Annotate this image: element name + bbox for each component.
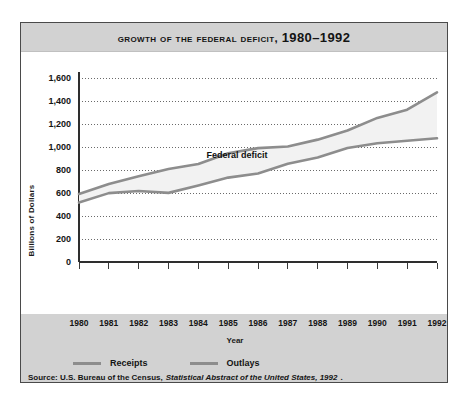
chart-legend: ReceiptsOutlays	[21, 354, 448, 372]
x-axis-tick-label: 1988	[308, 318, 327, 328]
x-axis-tick-label: 1981	[99, 318, 118, 328]
x-axis-tick-label: 1992	[428, 318, 447, 328]
source-note: Source: U.S. Bureau of the Census,Statis…	[21, 372, 448, 383]
legend-item-receipts[interactable]: Receipts	[73, 358, 148, 368]
source-suffix: .	[340, 373, 342, 382]
x-axis-title: Year	[21, 336, 448, 345]
y-axis-tick-label: 1,400	[48, 96, 71, 106]
chart-title-years: 1980–1992	[282, 30, 351, 45]
y-axis-tick-label: 0	[66, 257, 71, 267]
y-axis-tick-label: 800	[56, 165, 71, 175]
x-axis-tick-labels: 1980198119821983198419851986198719881989…	[21, 318, 448, 332]
legend-label: Outlays	[227, 358, 260, 368]
legend-swatch-icon	[190, 362, 218, 365]
chart-title-main: Growth of the Federal Deficit,	[118, 32, 282, 44]
x-axis-tick-label: 1990	[368, 318, 387, 328]
x-axis-band: 1980198119821983198419851986198719881989…	[21, 314, 448, 354]
plot-area: Billions of Dollars 02004006008001,0001,…	[21, 52, 448, 314]
legend-swatch-icon	[73, 362, 101, 365]
x-axis-tick-label: 1982	[129, 318, 148, 328]
y-axis-tick-label: 200	[56, 234, 71, 244]
line-chart-svg: 02004006008001,0001,2001,4001,600Federal…	[21, 52, 448, 314]
y-axis-tick-label: 1,000	[48, 142, 71, 152]
x-axis-tick-label: 1987	[278, 318, 297, 328]
federal-deficit-annotation: Federal deficit	[207, 150, 268, 160]
legend-item-outlays[interactable]: Outlays	[190, 358, 260, 368]
x-axis-tick-label: 1984	[189, 318, 208, 328]
chart-figure: Growth of the Federal Deficit, 1980–1992…	[20, 22, 448, 383]
source-prefix: Source: U.S. Bureau of the Census,	[28, 373, 163, 382]
source-citation-italic: Statistical Abstract of the United State…	[166, 373, 338, 382]
y-axis-tick-label: 600	[56, 188, 71, 198]
x-axis-tick-label: 1983	[159, 318, 178, 328]
page-title: Growth of the Federal Deficit, 1980–1992	[118, 30, 351, 45]
x-axis-tick-label: 1980	[70, 318, 89, 328]
y-axis-tick-label: 1,600	[48, 73, 71, 83]
x-axis-tick-label: 1989	[338, 318, 357, 328]
x-axis-tick-label: 1985	[219, 318, 238, 328]
x-axis-tick-label: 1986	[249, 318, 268, 328]
y-axis-tick-label: 400	[56, 211, 71, 221]
legend-label: Receipts	[110, 358, 148, 368]
screenshot-root: Growth of the Federal Deficit, 1980–1992…	[0, 0, 468, 400]
x-axis-tick-label: 1991	[398, 318, 417, 328]
chart-title-band: Growth of the Federal Deficit, 1980–1992	[21, 23, 447, 52]
y-axis-tick-label: 1,200	[48, 119, 71, 129]
